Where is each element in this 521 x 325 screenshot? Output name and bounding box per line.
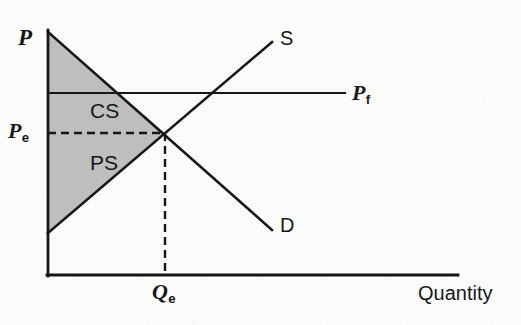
price-axis-label: P <box>18 26 32 49</box>
consumer-surplus-label: CS <box>90 100 119 121</box>
equilibrium-price-symbol: P <box>8 118 21 143</box>
price-floor-label: Pf <box>352 82 370 104</box>
price-floor-symbol: P <box>352 80 365 105</box>
demand-curve-label: D <box>280 215 294 235</box>
equilibrium-quantity-subscript: e <box>168 291 175 306</box>
supply-demand-diagram: P Pe Pf S D CS PS Qe Quantity <box>0 0 521 325</box>
diagram-canvas <box>0 0 521 325</box>
equilibrium-quantity-symbol: Q <box>152 279 168 304</box>
producer-surplus-label: PS <box>90 152 118 173</box>
equilibrium-quantity-label: Qe <box>152 281 175 303</box>
quantity-axis-label: Quantity <box>418 283 492 303</box>
supply-curve-label: S <box>280 28 293 48</box>
equilibrium-price-label: Pe <box>8 120 29 142</box>
equilibrium-price-subscript: e <box>22 130 29 145</box>
price-floor-subscript: f <box>366 92 370 107</box>
